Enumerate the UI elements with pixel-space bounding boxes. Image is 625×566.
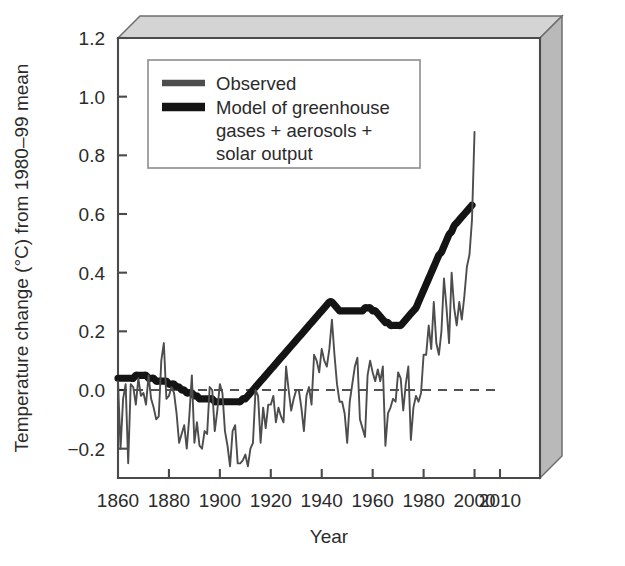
y-tick-label: 0.0 — [79, 380, 105, 401]
legend-label-model-line2: gases + aerosols + — [216, 120, 372, 141]
frame-bevel-right — [540, 16, 562, 478]
y-tick-label: 0.2 — [79, 321, 105, 342]
chart-svg: −0.20.00.20.40.60.81.01.2 18601880190019… — [0, 0, 625, 566]
x-tick-label: 2010 — [479, 490, 521, 511]
x-tick-label: 1900 — [199, 490, 241, 511]
legend-label-observed: Observed — [216, 73, 296, 94]
climate-temperature-chart: −0.20.00.20.40.60.81.01.2 18601880190019… — [0, 0, 625, 566]
x-tick-label: 1940 — [301, 490, 343, 511]
legend-label-model-line3: solar output — [216, 143, 313, 164]
x-tick-label: 1980 — [402, 490, 444, 511]
y-tick-label: 0.6 — [79, 204, 105, 225]
legend-label-model-line1: Model of greenhouse — [216, 97, 390, 118]
y-tick-label: 0.4 — [79, 263, 106, 284]
x-axis-title: Year — [310, 526, 349, 547]
x-tick-label: 1860 — [97, 490, 139, 511]
y-tick-label: 0.8 — [79, 145, 105, 166]
y-axis-title: Temperature change (°C) from 1980–99 mea… — [11, 64, 32, 453]
y-tick-label: 1.0 — [79, 87, 105, 108]
x-axis-tick-labels: 186018801900192019401960198020002010 — [97, 490, 521, 511]
y-tick-label: 1.2 — [79, 28, 105, 49]
x-tick-label: 1960 — [352, 490, 394, 511]
x-tick-label: 1880 — [148, 490, 190, 511]
chart-legend: Observed Model of greenhouse gases + aer… — [148, 60, 420, 168]
y-axis-tick-labels: −0.20.00.20.40.60.81.01.2 — [67, 28, 105, 460]
x-tick-label: 1920 — [250, 490, 292, 511]
y-tick-label: −0.2 — [67, 439, 105, 460]
frame-bevel-top — [118, 16, 562, 38]
